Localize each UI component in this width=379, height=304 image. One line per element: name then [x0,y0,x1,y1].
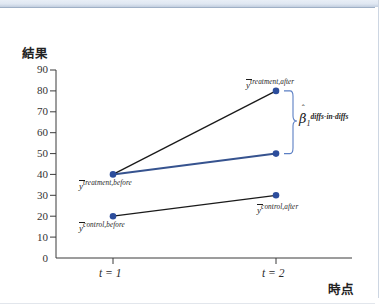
point-treatment-before [110,171,117,178]
y-tick-label-90: 90 [26,64,48,75]
label-treatment-after: ytreatment,after [246,79,294,90]
figure-page: 結果 90 80 70 60 50 40 30 20 10 0 t = 1 t … [0,0,379,304]
y-tick-label-10: 10 [26,232,48,243]
control-line [113,195,276,216]
x-tick-label-t2: t = 2 [262,268,284,280]
ybar-symbol: y [246,80,250,90]
y-tick-label-0: 0 [26,253,48,264]
ybar-symbol: y [79,181,83,191]
y-tick-label-30: 30 [26,190,48,201]
point-control-before [110,213,117,220]
y-tick-marks [50,70,56,237]
point-treatment-counterfactual [273,150,280,157]
label-effect-estimate: ˆβ1diffs-in-diffs [299,112,348,128]
ybar-symbol: y [79,223,83,233]
y-axis-title: 結果 [22,48,48,61]
page-top-band [0,0,379,7]
label-superscript: treatment,after [250,78,294,86]
label-treatment-before: ytreatment,before [79,180,132,191]
x-tick-marks [113,258,276,264]
ybar-symbol: y [257,205,261,215]
label-control-before: ycontrol,before [79,222,125,233]
y-tick-label-60: 60 [26,127,48,138]
y-tick-label-50: 50 [26,148,48,159]
label-superscript: control,before [83,221,125,229]
y-tick-label-20: 20 [26,211,48,222]
effect-brace [284,91,297,154]
y-tick-label-70: 70 [26,106,48,117]
y-tick-label-80: 80 [26,85,48,96]
treatment-counterfactual-line [113,154,276,175]
beta-superscript: diffs-in-diffs [311,112,349,121]
beta-symbol: ˆβ [299,111,307,126]
x-axis-title: 時点 [328,284,354,297]
label-control-after: ycontrol,after [257,204,298,215]
y-tick-label-40: 40 [26,169,48,180]
point-control-after [273,192,280,199]
label-superscript: control,after [261,203,298,211]
label-superscript: treatment,before [83,179,132,187]
treatment-observed-line [113,91,276,174]
chart-svg [0,8,375,300]
chart-canvas: 結果 90 80 70 60 50 40 30 20 10 0 t = 1 t … [0,8,375,300]
hat-accent: ˆ [301,105,306,114]
x-tick-label-t1: t = 1 [99,268,121,280]
